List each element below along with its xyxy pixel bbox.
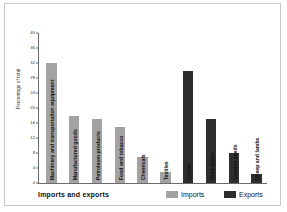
y-tick-label: 0 (33, 181, 35, 185)
chart-title: Imports and exports (38, 191, 109, 198)
legend-label-exports: Exports (239, 191, 263, 198)
y-tick-label: 16 (30, 121, 35, 125)
y-tick-mark (36, 108, 38, 109)
y-tick-label: 24 (30, 91, 35, 95)
y-tick-label: 32 (30, 61, 35, 65)
y-tick-mark (36, 168, 38, 169)
bar-label: Machinery and transportation equipment (50, 79, 55, 180)
bar-label: Cotton (187, 163, 192, 180)
legend-swatch-imports-icon (166, 191, 178, 198)
legend-swatch-exports-icon (224, 191, 236, 198)
y-axis-title: Percentage of total (16, 69, 21, 109)
chart-frame: Percentage of total 0481216202428323640 … (4, 3, 281, 206)
bar-label: Textiles (164, 161, 169, 180)
y-tick-label: 20 (30, 106, 35, 110)
y-tick-label: 28 (30, 76, 35, 80)
y-tick-label: 36 (30, 46, 35, 50)
bar-label: Manufactured goods (73, 129, 78, 180)
y-tick-mark (36, 93, 38, 94)
bar-label: Chemicals (141, 154, 146, 180)
legend-item-imports: Imports (166, 191, 204, 198)
bar-label: Petroleum products (96, 131, 101, 180)
bar-label: Gum arabic (210, 151, 215, 180)
y-tick-label: 8 (33, 151, 35, 155)
y-tick-mark (36, 123, 38, 124)
bar-label: Sheep and lambs (255, 137, 260, 180)
legend-item-exports: Exports (224, 191, 263, 198)
y-tick-mark (36, 183, 38, 184)
y-tick-mark (36, 63, 38, 64)
y-tick-label: 12 (30, 136, 35, 140)
legend-label-imports: Imports (181, 191, 204, 198)
y-tick-mark (36, 78, 38, 79)
y-tick-mark (36, 33, 38, 34)
x-axis-line (38, 183, 267, 184)
y-tick-mark (36, 153, 38, 154)
plot-area: 0481216202428323640 Machinery and transp… (38, 33, 266, 183)
bar-label: Food and tobacco (118, 135, 123, 180)
chart-footer: Imports and exports Imports Exports (38, 189, 270, 205)
y-tick-label: 4 (33, 166, 35, 170)
y-tick-mark (36, 48, 38, 49)
y-tick-mark (36, 138, 38, 139)
y-tick-label: 40 (30, 31, 35, 35)
bar-label: Sesame seeds (232, 144, 237, 180)
